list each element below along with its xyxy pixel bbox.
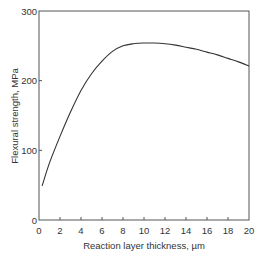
x-tick-label: 18: [223, 225, 234, 236]
x-tick-label: 6: [99, 225, 104, 236]
x-tick-label: 16: [202, 225, 213, 236]
x-tick-label: 14: [181, 225, 192, 236]
x-tick-label: 2: [57, 225, 62, 236]
plot-frame: [39, 11, 249, 220]
x-tick-label: 4: [78, 225, 83, 236]
y-tick-label: 300: [21, 6, 37, 17]
y-axis-label: Flexural strength, MPa: [9, 68, 20, 164]
y-tick-label: 0: [32, 215, 37, 226]
y-tick-label: 200: [21, 75, 37, 86]
series-line: [42, 43, 249, 186]
y-tick-label: 100: [21, 145, 37, 156]
x-tick-label: 10: [139, 225, 150, 236]
chart: 02468101214161820 0100200300 Reaction la…: [0, 0, 267, 262]
x-tick-label: 20: [244, 225, 255, 236]
x-tick-label: 8: [120, 225, 125, 236]
x-tick-label: 12: [160, 225, 171, 236]
x-axis-label: Reaction layer thickness, µm: [83, 240, 205, 251]
x-tick-label: 0: [36, 225, 41, 236]
